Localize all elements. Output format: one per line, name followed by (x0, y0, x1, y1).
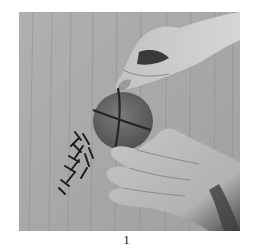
photo-illustration (19, 12, 240, 231)
photo-pomander-step-1 (19, 12, 240, 231)
figure-caption: 1 (0, 232, 253, 248)
figure: 1 (0, 0, 253, 250)
